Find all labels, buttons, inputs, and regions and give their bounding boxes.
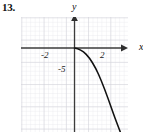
x-axis-label: x [139, 42, 143, 52]
function-curve [75, 48, 121, 132]
y-axis-label: y [72, 2, 76, 12]
y-axis [71, 17, 78, 132]
coordinate-plane: -2 2 -5 x y [21, 17, 128, 132]
problem-number: 13. [2, 2, 15, 13]
x-tick-label-positive-2: 2 [100, 51, 105, 60]
y-tick-label-negative-5: -5 [58, 65, 66, 74]
x-tick-label-negative-2: -2 [41, 51, 49, 60]
axes-and-curve [21, 17, 128, 132]
exercise-figure: 13. [0, 0, 143, 132]
